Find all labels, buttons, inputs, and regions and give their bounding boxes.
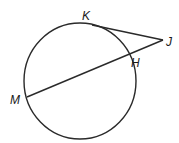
- point-label-J: J: [165, 35, 173, 49]
- point-label-K: K: [82, 9, 91, 23]
- circle: [24, 23, 136, 139]
- tangent-segment-KJ: [92, 25, 163, 40]
- point-label-M: M: [10, 93, 20, 107]
- geometry-diagram: K J H M: [0, 0, 179, 143]
- point-label-H: H: [131, 56, 140, 70]
- secant-segment-MJ: [27, 40, 163, 97]
